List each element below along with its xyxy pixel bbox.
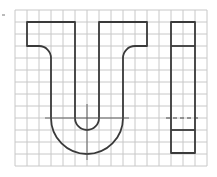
corner-mark <box>2 14 5 16</box>
grid-paper <box>15 10 207 166</box>
diagram-canvas <box>0 0 217 177</box>
